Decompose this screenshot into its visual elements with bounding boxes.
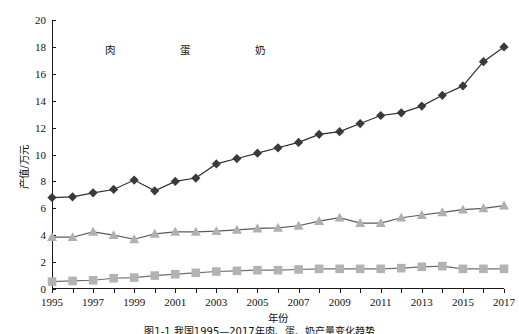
y-axis-tick-label: 0	[22, 284, 46, 295]
x-axis-tick-mark	[381, 289, 382, 293]
data-point	[48, 277, 57, 286]
data-point	[274, 266, 283, 275]
data-point	[459, 265, 468, 274]
x-axis-tick-label: 2011	[370, 297, 392, 308]
x-axis-tick-label: 2013	[411, 297, 433, 308]
y-axis-tick-label: 16	[22, 68, 46, 79]
data-point	[356, 265, 365, 274]
series-meat	[47, 42, 508, 202]
data-point	[315, 265, 324, 274]
x-axis-tick-mark	[483, 289, 484, 293]
y-axis-tick-label: 18	[22, 41, 46, 52]
data-point	[150, 271, 159, 280]
x-axis-tick-mark	[134, 289, 135, 293]
series-egg	[48, 262, 509, 286]
x-axis-tick-label: 2007	[288, 297, 310, 308]
data-point	[499, 42, 508, 51]
x-axis-tick-label: 1995	[41, 297, 63, 308]
data-point	[294, 265, 303, 274]
data-point	[376, 111, 385, 120]
plot-area: 0246810121416182019951997199920012003200…	[52, 20, 504, 289]
y-axis-tick-label: 2	[22, 257, 46, 268]
data-point	[397, 108, 406, 117]
y-axis-tick-label: 4	[22, 230, 46, 241]
y-axis-tick-label: 8	[22, 176, 46, 187]
data-point	[89, 276, 98, 285]
x-axis-tick-mark	[319, 289, 320, 293]
data-point	[273, 143, 282, 152]
data-point	[88, 188, 97, 197]
data-point	[438, 91, 447, 100]
legend-item-milk[interactable]: 奶	[216, 42, 265, 57]
data-point	[233, 267, 242, 276]
data-point	[47, 193, 56, 202]
data-point	[418, 263, 427, 272]
series-milk	[47, 201, 509, 244]
x-axis-tick-mark	[463, 289, 464, 293]
data-point	[479, 265, 488, 274]
data-point	[192, 269, 201, 278]
x-axis-tick-label: 2009	[329, 297, 351, 308]
data-point	[314, 130, 323, 139]
x-axis-tick-mark	[216, 289, 217, 293]
x-axis-tick-mark	[155, 289, 156, 293]
legend-label-meat: 肉	[105, 42, 115, 57]
data-point	[232, 154, 241, 163]
x-axis-tick-mark	[196, 289, 197, 293]
x-axis-tick-mark	[257, 289, 258, 293]
x-axis-tick-mark	[340, 289, 341, 293]
data-point	[417, 101, 426, 110]
y-axis-tick-label: 10	[22, 149, 46, 160]
x-axis-title: 年份	[52, 310, 504, 325]
legend-item-egg[interactable]: 蛋	[141, 42, 190, 57]
data-point	[376, 265, 385, 274]
x-axis-tick-mark	[401, 289, 402, 293]
data-point	[253, 149, 262, 158]
x-axis-tick-mark	[278, 289, 279, 293]
data-point	[335, 213, 345, 222]
chart-figure: 产值/万元 0246810121416182019951997199920012…	[0, 0, 519, 334]
data-point	[499, 201, 509, 210]
x-axis-tick-mark	[504, 289, 505, 293]
x-axis-tick-mark	[299, 289, 300, 293]
figure-caption: 图1-1 我国1995—2017年肉、蛋、奶产量变化趋势	[0, 325, 519, 334]
data-point	[335, 127, 344, 136]
x-axis-tick-label: 2003	[205, 297, 227, 308]
x-axis-tick-mark	[237, 289, 238, 293]
x-axis-tick-mark	[73, 289, 74, 293]
data-point	[88, 227, 98, 236]
x-axis-tick-mark	[360, 289, 361, 293]
x-axis-tick-label: 1999	[123, 297, 145, 308]
data-point	[68, 277, 77, 286]
x-axis-tick-mark	[93, 289, 94, 293]
data-point	[212, 159, 221, 168]
data-point	[191, 173, 200, 182]
x-axis-tick-label: 2001	[164, 297, 186, 308]
data-point	[356, 119, 365, 128]
y-axis-tick-label: 6	[22, 203, 46, 214]
x-axis-tick-mark	[52, 289, 53, 293]
data-point	[130, 175, 139, 184]
x-axis-tick-label: 2015	[452, 297, 474, 308]
data-point	[438, 262, 447, 271]
data-point	[212, 267, 221, 276]
data-point	[397, 264, 406, 273]
legend-item-meat[interactable]: 肉	[66, 42, 115, 57]
x-axis-tick-mark	[442, 289, 443, 293]
series-layer	[52, 20, 504, 289]
data-point	[171, 177, 180, 186]
series-line	[52, 206, 504, 240]
legend-label-milk: 奶	[255, 42, 265, 57]
y-axis-tick-label: 20	[22, 15, 46, 26]
x-axis-tick-label: 2005	[246, 297, 268, 308]
data-point	[500, 265, 509, 274]
data-point	[68, 192, 77, 201]
x-axis-tick-label: 1997	[82, 297, 104, 308]
legend-label-egg: 蛋	[180, 42, 190, 57]
data-point	[294, 138, 303, 147]
data-point	[171, 270, 180, 279]
x-axis-tick-mark	[114, 289, 115, 293]
chart-legend: 肉 蛋 奶	[66, 42, 265, 57]
data-point	[109, 185, 118, 194]
y-axis-tick-label: 12	[22, 122, 46, 133]
